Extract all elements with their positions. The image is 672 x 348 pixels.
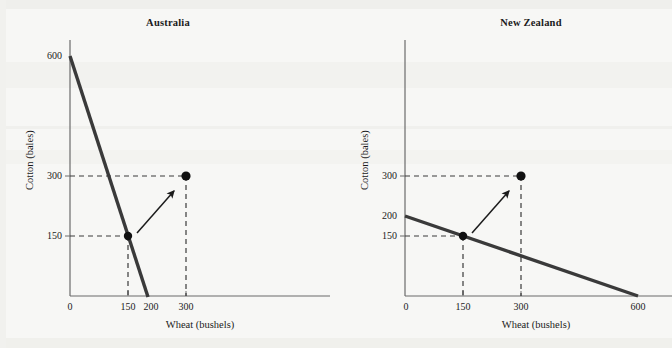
x-tick-label-300: 300 [172, 301, 200, 312]
y-tick-label-300: 300 [359, 170, 397, 181]
x-tick-label-200: 200 [137, 301, 165, 312]
y-tick-label-150: 150 [359, 230, 397, 241]
production-point-australia [124, 232, 132, 240]
x-tick-label-0: 0 [393, 301, 419, 312]
x-tick-label-150: 150 [449, 301, 477, 312]
x-axis-title-australia: Wheat (bushels) [32, 319, 368, 330]
consumption-point-new-zealand [516, 171, 525, 180]
y-tick-label-200: 200 [359, 210, 397, 221]
gains-from-trade-arrow [137, 191, 174, 233]
x-tick-label-600: 600 [624, 301, 652, 312]
consumption-point-australia [181, 171, 190, 180]
gains-from-trade-arrow [472, 191, 509, 233]
x-tick-label-300: 300 [507, 301, 535, 312]
y-tick-label-600: 600 [24, 50, 62, 61]
production-point-new-zealand [459, 232, 467, 240]
y-axis-title-new-zealand: Cotton (bales) [359, 130, 370, 190]
y-tick-label-300: 300 [24, 170, 62, 181]
panel-australia: Australia Cotton (bales) Whe [0, 0, 336, 348]
panel-new-zealand: New Zealand Cotton (bales) Wheat [336, 0, 672, 348]
x-tick-label-0: 0 [57, 301, 83, 312]
x-axis-title-new-zealand: Wheat (bushels) [368, 319, 672, 330]
y-axis-title-australia: Cotton (bales) [24, 130, 35, 190]
y-tick-label-150: 150 [24, 230, 62, 241]
